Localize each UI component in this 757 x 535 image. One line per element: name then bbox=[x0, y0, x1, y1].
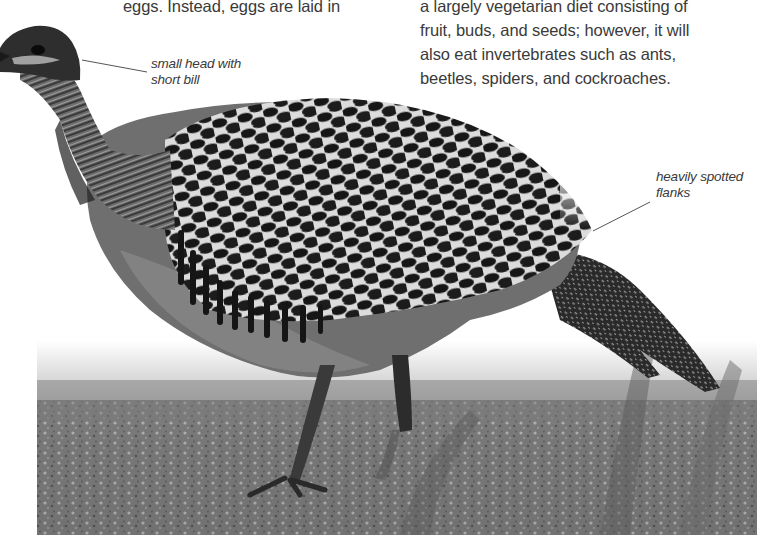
text-line: fruit, buds, and seeds; however, it will bbox=[420, 18, 689, 42]
ground bbox=[37, 400, 757, 535]
text-line: beetles, spiders, and cockroaches. bbox=[420, 66, 689, 90]
bird-eye bbox=[31, 45, 45, 55]
annotation-line: flanks bbox=[656, 185, 743, 201]
head-leader-line bbox=[82, 60, 147, 72]
head-annotation: small head with short bill bbox=[151, 56, 241, 88]
flanks-annotation: heavily spotted flanks bbox=[656, 169, 743, 201]
annotation-line: short bill bbox=[151, 72, 241, 88]
book-page: eggs. Instead, eggs are laid in a largel… bbox=[0, 0, 757, 535]
annotation-line: small head with bbox=[151, 56, 241, 72]
right-column-text: a largely vegetarian diet consisting of … bbox=[420, 0, 689, 90]
left-column-text: eggs. Instead, eggs are laid in bbox=[123, 0, 340, 18]
text-line: eggs. Instead, eggs are laid in bbox=[123, 0, 340, 18]
annotation-line: heavily spotted bbox=[656, 169, 743, 185]
text-line: also eat invertebrates such as ants, bbox=[420, 42, 689, 66]
text-line: a largely vegetarian diet consisting of bbox=[420, 0, 689, 18]
